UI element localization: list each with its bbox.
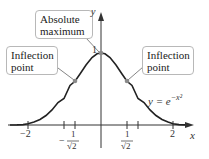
infl-right-leader bbox=[128, 67, 143, 80]
x-axis-label: x bbox=[190, 129, 195, 141]
curve-eq-prefix: y = e bbox=[148, 95, 171, 107]
x-tick-neg-sign: − bbox=[59, 135, 65, 146]
x-tick-neg2: −2 bbox=[20, 128, 31, 139]
inflection-point-right bbox=[125, 79, 130, 84]
abs-max-line1: Absolute bbox=[40, 13, 88, 25]
infl-left-line2: point bbox=[11, 61, 53, 73]
x-axis-arrow-icon bbox=[185, 122, 194, 128]
inflection-point-left bbox=[73, 79, 78, 84]
infl-left-leader bbox=[58, 68, 74, 80]
curve-equation: y = e−x² bbox=[148, 93, 182, 107]
callout-absolute-maximum: Absolute maximum bbox=[35, 10, 93, 39]
callout-inflection-left: Inflection point bbox=[6, 46, 58, 75]
x-tick-pos-num: 1 bbox=[125, 129, 130, 139]
abs-max-line2: maximum bbox=[40, 25, 88, 37]
infl-right-line2: point bbox=[147, 61, 189, 73]
infl-left-line1: Inflection bbox=[11, 49, 53, 61]
y-axis-arrow-icon bbox=[98, 12, 104, 21]
x-tick-neg-num: 1 bbox=[71, 129, 76, 139]
callout-inflection-right: Inflection point bbox=[142, 46, 194, 75]
y-axis-label: y bbox=[91, 6, 95, 17]
plot-canvas bbox=[0, 0, 209, 159]
x-tick-pos-den: √2 bbox=[121, 141, 130, 151]
y-tick-1: 1 bbox=[92, 44, 97, 55]
x-tick-neg-den: √2 bbox=[67, 141, 76, 151]
curve-eq-exponent: −x² bbox=[171, 93, 182, 102]
infl-right-line1: Inflection bbox=[147, 49, 189, 61]
x-tick-2: 2 bbox=[170, 128, 175, 139]
absolute-maximum-point bbox=[99, 51, 104, 56]
